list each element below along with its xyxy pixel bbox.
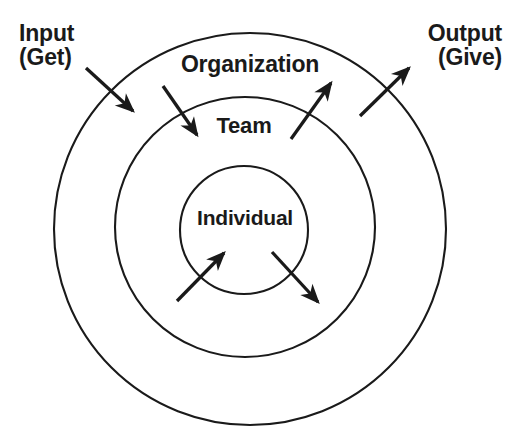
ring-inner-individual [180,166,308,294]
arrow-into-individual-icon [177,253,224,301]
arrow-organization-to-team-icon [163,86,197,135]
output-label-line2: (Give) [428,45,502,69]
input-get-label: Input (Get) [19,21,74,69]
output-label-line1: Output [428,21,502,45]
input-label-line1: Input [19,21,74,45]
ring-label-individual: Individual [197,207,293,229]
ring-label-team: Team [216,114,271,137]
arrow-team-to-organization-icon [360,68,409,116]
arrow-input-to-organization-icon [86,68,133,111]
diagram-canvas: Organization Team Individual Input (Get)… [0,0,509,443]
arrow-out-of-individual-icon [272,252,318,302]
ring-label-organization: Organization [181,52,319,76]
output-give-label: Output (Give) [428,21,502,69]
input-label-line2: (Get) [19,45,74,69]
arrow-individual-to-team-icon [291,83,331,139]
